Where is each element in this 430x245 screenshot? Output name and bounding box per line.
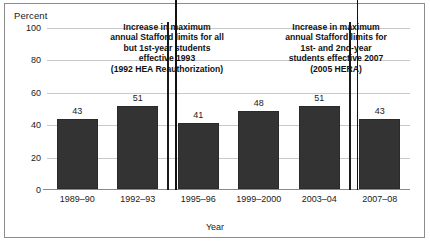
bar-value-label: 48 bbox=[254, 98, 264, 108]
y-tick-label: 100 bbox=[26, 23, 41, 33]
annotation-2005-hera: Increase in maximumannual Stafford limit… bbox=[256, 22, 416, 74]
y-tick-label: 20 bbox=[31, 153, 41, 163]
x-axis-title: Year bbox=[0, 222, 430, 232]
annotation-1992-hea: Increase in maximumannual Stafford limit… bbox=[92, 22, 242, 74]
annotation-line: (2005 HERA) bbox=[256, 64, 416, 74]
bar bbox=[117, 106, 158, 189]
gridline bbox=[47, 125, 410, 126]
annotation-line: Increase in maximum bbox=[92, 22, 242, 32]
x-tick-label: 2007–08 bbox=[362, 194, 397, 204]
x-tick-label: 1995–96 bbox=[181, 194, 216, 204]
bar bbox=[359, 119, 400, 189]
annotation-line: (1992 HEA Reauthorization) bbox=[92, 64, 242, 74]
bar-value-label: 51 bbox=[314, 93, 324, 103]
annotation-line: effective 1993 bbox=[92, 53, 242, 63]
bar-value-label: 41 bbox=[193, 110, 203, 120]
x-tick-label: 2003–04 bbox=[302, 194, 337, 204]
bar bbox=[299, 106, 340, 189]
annotation-line: students effective 2007 bbox=[256, 53, 416, 63]
bar bbox=[178, 123, 219, 189]
gridline bbox=[47, 93, 410, 94]
annotation-line: annual Stafford limits for bbox=[256, 32, 416, 42]
y-tick-label: 0 bbox=[36, 185, 41, 195]
y-tick-label: 40 bbox=[31, 120, 41, 130]
gridline bbox=[47, 158, 410, 159]
bar bbox=[238, 111, 279, 189]
bar bbox=[57, 119, 98, 189]
x-axis-baseline bbox=[43, 189, 410, 190]
bar-value-label: 43 bbox=[72, 106, 82, 116]
y-tick-label: 80 bbox=[31, 55, 41, 65]
annotation-line: Increase in maximum bbox=[256, 22, 416, 32]
x-tick-label: 1989–90 bbox=[60, 194, 95, 204]
chart-figure: Percent 020406080100 435141485143 1989–9… bbox=[0, 0, 430, 245]
bar-value-label: 51 bbox=[133, 93, 143, 103]
bar-value-label: 43 bbox=[375, 106, 385, 116]
annotation-line: but 1st-year students bbox=[92, 43, 242, 53]
annotation-line: 1st- and 2nd-year bbox=[256, 43, 416, 53]
x-tick-label: 1992–93 bbox=[120, 194, 155, 204]
y-tick-label: 60 bbox=[31, 88, 41, 98]
x-tick-label: 1999–2000 bbox=[236, 194, 281, 204]
annotation-line: annual Stafford limits for all bbox=[92, 32, 242, 42]
y-axis-title: Percent bbox=[14, 10, 47, 21]
